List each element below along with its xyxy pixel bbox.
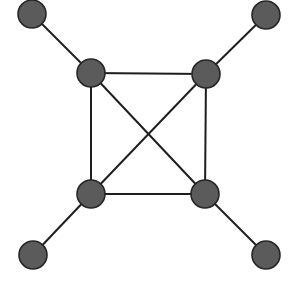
node-tr_inner xyxy=(192,60,220,88)
node-tr_outer xyxy=(252,1,280,29)
graph-diagram xyxy=(0,0,299,290)
node-tl_outer xyxy=(18,0,46,28)
node-br_outer xyxy=(252,241,280,269)
node-tl_inner xyxy=(77,59,105,87)
node-br_inner xyxy=(191,180,219,208)
node-bl_outer xyxy=(19,241,47,269)
node-bl_inner xyxy=(77,180,105,208)
edges-group xyxy=(32,14,266,255)
edge-tr_inner-br_inner xyxy=(205,74,206,194)
edge-tl_inner-tr_inner xyxy=(91,73,206,74)
